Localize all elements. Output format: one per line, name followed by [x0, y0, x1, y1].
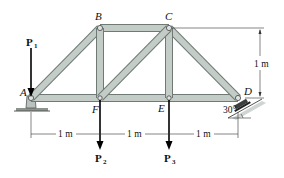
label-f: F — [91, 103, 99, 115]
truss-diagram: 30° P 1 P 2 P 3 A B C D F E 1 m — [0, 0, 284, 178]
label-c: C — [165, 10, 173, 22]
pin-e — [167, 96, 171, 100]
svg-text:P: P — [95, 152, 102, 164]
pin-f — [98, 96, 102, 100]
svg-text:2: 2 — [103, 158, 107, 166]
truss-members — [31, 28, 238, 98]
pin-c — [166, 25, 171, 30]
svg-text:3: 3 — [172, 158, 176, 166]
pin-d — [235, 95, 240, 100]
dim-fe: 1 m — [127, 129, 142, 139]
dim-height: 1 m — [254, 59, 269, 69]
label-b: B — [95, 10, 102, 22]
svg-text:P: P — [164, 152, 171, 164]
vertical-dimension: 1 m — [172, 28, 269, 98]
dim-af: 1 m — [58, 129, 73, 139]
pin-b — [97, 25, 102, 30]
dim-ed: 1 m — [196, 129, 211, 139]
svg-text:P: P — [26, 36, 33, 48]
label-d: D — [243, 85, 252, 97]
horizontal-dimensions: 1 m 1 m 1 m — [31, 112, 238, 139]
label-a: A — [19, 86, 27, 98]
label-e: E — [157, 102, 165, 114]
load-p3: P 3 — [164, 100, 176, 166]
angle-label: 30° — [223, 105, 237, 115]
ground-a — [14, 108, 50, 111]
svg-text:1: 1 — [34, 42, 38, 50]
